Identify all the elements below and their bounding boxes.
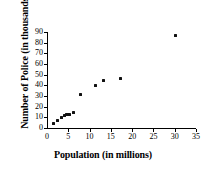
x-axis-line xyxy=(47,128,196,129)
y-tick xyxy=(44,128,47,129)
data-point xyxy=(52,122,55,125)
y-tick xyxy=(44,64,47,65)
y-axis-line xyxy=(47,32,48,128)
x-tick-label: 25 xyxy=(145,133,161,141)
x-tick-label: 0 xyxy=(39,133,55,141)
y-tick xyxy=(44,43,47,44)
data-point xyxy=(102,79,105,82)
x-tick-label: 10 xyxy=(82,133,98,141)
y-tick-label: 10 xyxy=(27,113,43,121)
data-point xyxy=(119,77,122,80)
x-tick-label: 20 xyxy=(124,133,140,141)
y-tick-label: 90 xyxy=(27,28,43,36)
data-point xyxy=(79,93,82,96)
y-tick-label: 60 xyxy=(27,60,43,68)
y-tick-label: 30 xyxy=(27,92,43,100)
y-tick xyxy=(44,85,47,86)
y-tick-label: 0 xyxy=(27,124,43,132)
x-axis-title: Population (in millions) xyxy=(0,149,206,160)
y-tick-label: 50 xyxy=(27,71,43,79)
y-tick xyxy=(44,75,47,76)
data-point xyxy=(94,84,97,87)
data-point xyxy=(174,34,177,37)
y-tick xyxy=(44,96,47,97)
x-tick-label: 30 xyxy=(167,133,183,141)
y-tick-label: 80 xyxy=(27,39,43,47)
scatter-chart-figure: Number of Police (in thousands) 01020304… xyxy=(0,0,206,174)
data-point xyxy=(56,119,59,122)
x-tick-label: 15 xyxy=(103,133,119,141)
x-tick-label: 35 xyxy=(188,133,204,141)
y-tick xyxy=(44,32,47,33)
x-tick-label: 5 xyxy=(60,133,76,141)
y-tick xyxy=(44,117,47,118)
y-tick-label: 20 xyxy=(27,103,43,111)
plot-area xyxy=(47,32,196,128)
y-tick xyxy=(44,53,47,54)
data-point xyxy=(72,111,75,114)
y-tick xyxy=(44,107,47,108)
y-tick-label: 70 xyxy=(27,49,43,57)
y-tick-label: 40 xyxy=(27,81,43,89)
